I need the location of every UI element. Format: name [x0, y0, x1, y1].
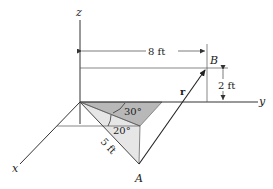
y-axis-label: y: [258, 95, 266, 108]
angle-20-label: 20°: [113, 125, 131, 136]
angle-30-label: 30°: [124, 106, 142, 117]
point-b-label: B: [209, 54, 218, 67]
x-axis-label: x: [12, 162, 19, 175]
diagram-canvas: 8 ft 2 ft 30° 20° 5 ft r z y x B A: [0, 0, 273, 189]
dim-8ft-label: 8 ft: [148, 46, 165, 57]
r-vector: [139, 70, 205, 164]
point-a-label: A: [134, 172, 143, 185]
dim-2ft-label: 2 ft: [218, 80, 235, 91]
r-vector-label: r: [180, 86, 186, 97]
x-axis: [20, 102, 80, 164]
position-vector-diagram: 8 ft 2 ft 30° 20° 5 ft r z y x B A: [0, 0, 273, 189]
z-axis-label: z: [75, 6, 82, 19]
